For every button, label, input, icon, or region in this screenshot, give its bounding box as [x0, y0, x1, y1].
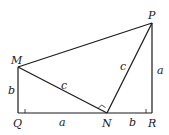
- segment-label-RP: a: [157, 64, 164, 77]
- segment-label-QN: a: [59, 116, 66, 129]
- segment-label-NR: b: [129, 116, 136, 129]
- right-angle-mark-N: [98, 105, 106, 109]
- point-label-N: N: [101, 117, 112, 130]
- segment-NP: [107, 23, 152, 113]
- segment-label-MN: c: [61, 79, 67, 92]
- segment-label-MQ: b: [8, 84, 15, 97]
- point-label-M: M: [10, 54, 23, 67]
- geometry-diagram: P M Q N R b a b a c c: [0, 0, 169, 135]
- point-label-R: R: [147, 117, 156, 130]
- point-label-Q: Q: [13, 117, 22, 130]
- segment-label-NP: c: [120, 60, 126, 73]
- segment-MP: [18, 23, 152, 67]
- point-label-P: P: [147, 9, 156, 22]
